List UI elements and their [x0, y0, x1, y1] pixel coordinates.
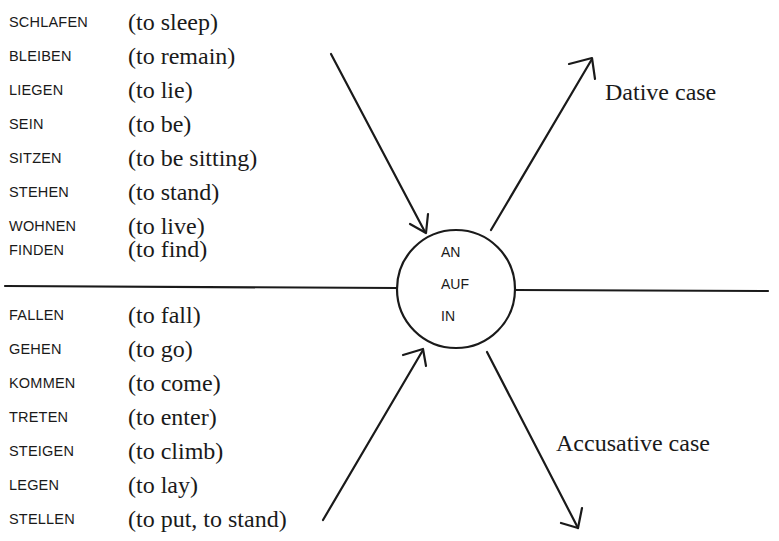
accusative-in-arrow-shaft [323, 350, 423, 520]
two-way-prepositions-diagram: SCHLAFEN (to sleep) BLEIBEN (to remain) … [0, 0, 779, 541]
dative-case-label: Dative case [605, 79, 716, 106]
english-translation: (to put, to stand) [128, 506, 287, 533]
english-translation: (to fall) [128, 302, 201, 329]
english-translation: (to be sitting) [128, 145, 257, 172]
german-verb: TRETEN [9, 409, 68, 425]
german-verb: SEIN [9, 116, 44, 132]
english-translation: (to stand) [128, 179, 219, 206]
preposition-auf: AUF [441, 276, 469, 292]
german-verb: GEHEN [9, 341, 62, 357]
german-verb: STEHEN [9, 184, 69, 200]
german-verb: STELLEN [9, 511, 75, 527]
dative-in-arrow-shaft [331, 54, 425, 232]
accusative-out-arrowhead-icon [561, 508, 582, 528]
german-verb: LEGEN [9, 477, 59, 493]
preposition-an: AN [441, 244, 460, 260]
english-translation: (to go) [128, 336, 193, 363]
german-verb: SCHLAFEN [9, 14, 88, 30]
german-verb: FINDEN [9, 242, 64, 258]
divider-line-right [515, 290, 768, 291]
dative-out-arrow-shaft [491, 59, 592, 230]
german-verb: STEIGEN [9, 443, 74, 459]
english-translation: (to find) [128, 236, 207, 263]
german-verb: BLEIBEN [9, 48, 72, 64]
english-translation: (to lay) [128, 472, 198, 499]
german-verb: LIEGEN [9, 82, 63, 98]
accusative-case-label: Accusative case [556, 430, 710, 457]
dative-in-arrowhead-icon [410, 214, 428, 233]
english-translation: (to come) [128, 370, 221, 397]
german-verb: KOMMEN [9, 375, 75, 391]
german-verb: WOHNEN [9, 218, 76, 234]
german-verb: FALLEN [9, 307, 64, 323]
english-translation: (to lie) [128, 77, 193, 104]
english-translation: (to sleep) [128, 9, 218, 36]
english-translation: (to enter) [128, 404, 217, 431]
english-translation: (to remain) [128, 43, 235, 70]
preposition-in: IN [441, 308, 455, 324]
german-verb: SITZEN [9, 150, 62, 166]
english-translation: (to climb) [128, 438, 223, 465]
english-translation: (to be) [128, 111, 191, 138]
divider-line-left [5, 286, 397, 288]
